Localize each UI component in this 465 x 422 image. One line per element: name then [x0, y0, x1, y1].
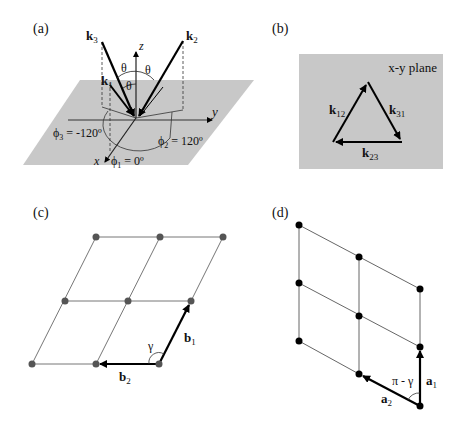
- theta-label-3: θ: [126, 79, 132, 93]
- panel-a-label: (a): [33, 21, 49, 37]
- z-label: z: [138, 39, 144, 53]
- panel-d: (d) π - γ a1 a2: [272, 205, 437, 410]
- xy-plane: [23, 80, 254, 165]
- phi1-label: ϕ1 = 0º: [111, 154, 144, 170]
- pi-minus-gamma-label: π - γ: [392, 374, 414, 388]
- lattice-points-c: [29, 234, 227, 368]
- panel-c-label: (c): [33, 205, 49, 221]
- x-label: x: [93, 154, 100, 168]
- gamma-label: γ: [147, 339, 154, 353]
- pi-minus-gamma-arc: [408, 393, 420, 400]
- panel-c: (c) γ b1 b2: [29, 205, 227, 386]
- a1-label: a1: [426, 373, 437, 390]
- k1-label: k1: [101, 73, 113, 90]
- k2-label: k2: [186, 28, 198, 45]
- k3-label: k3: [86, 28, 98, 45]
- panel-a: (a) k3 k2 k1 z y x θ θ θ ϕ3 = -120º ϕ2 =: [23, 21, 254, 170]
- figure-canvas: (a) k3 k2 k1 z y x θ θ θ ϕ3 = -120º ϕ2 =: [0, 0, 465, 422]
- panel-b-label: (b): [272, 21, 289, 37]
- theta-label-1: θ: [121, 61, 127, 75]
- plane-label: x-y plane: [388, 60, 437, 75]
- y-label: y: [210, 104, 218, 119]
- a2-label: a2: [381, 391, 392, 408]
- panel-d-label: (d): [272, 205, 289, 221]
- panel-b: (b) x-y plane k12 k31 k23: [272, 21, 443, 169]
- b1-label: b1: [184, 330, 196, 347]
- lattice-d: [299, 225, 420, 374]
- theta-label-2: θ: [145, 63, 151, 77]
- b2-label: b2: [119, 369, 131, 386]
